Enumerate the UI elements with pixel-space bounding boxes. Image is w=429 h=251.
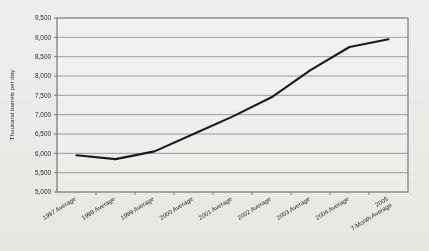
y-axis-tick-label: 7,000 — [35, 111, 51, 118]
y-axis-tick-label: 5,000 — [35, 188, 51, 195]
y-axis-tick-label: 6,000 — [35, 150, 51, 157]
y-axis-tick-label: 7,500 — [35, 92, 51, 99]
line-chart: 5,0005,5006,0006,5007,0007,5008,0008,500… — [0, 0, 429, 251]
y-axis-tick-label: 8,000 — [35, 72, 51, 79]
y-axis-tick-label: 8,500 — [35, 53, 51, 60]
y-axis-tick-label: 9,500 — [35, 14, 51, 21]
y-axis-tick-label: 5,500 — [35, 169, 51, 176]
chart-canvas: 5,0005,5006,0006,5007,0007,5008,0008,500… — [0, 0, 429, 251]
y-axis-tick-label: 6,500 — [35, 130, 51, 137]
plot-area-background — [57, 18, 408, 192]
y-axis-title: Thousand barrels per day — [8, 69, 15, 140]
y-axis-tick-label: 9,000 — [35, 34, 51, 41]
